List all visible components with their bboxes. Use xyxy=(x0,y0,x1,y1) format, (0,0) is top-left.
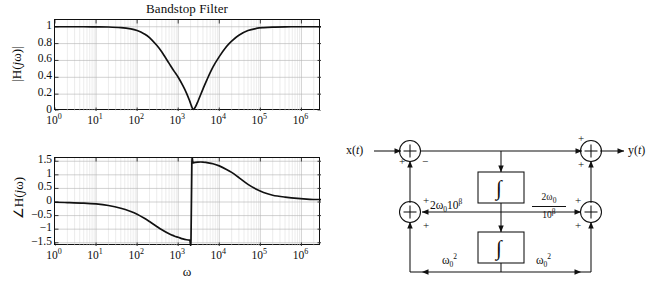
sign-s1-bottom: − xyxy=(422,157,428,166)
x-tick-label: 104 xyxy=(198,246,238,261)
sign-s4-bottomleft: + xyxy=(575,221,581,230)
y-tick-label: 0.5 xyxy=(6,181,52,191)
output-signal-label: y(t) xyxy=(628,143,645,158)
page-title: Bandstop Filter xyxy=(54,1,320,17)
x-tick-label: 101 xyxy=(75,111,115,126)
plots-region: Bandstop Filter |H(jω)| 00.20.40.60.81 1… xyxy=(0,0,332,284)
integral-icon-1: ∫ xyxy=(496,176,502,201)
x-tick-label: 100 xyxy=(34,246,74,261)
y-tick-label: 0.8 xyxy=(6,37,52,47)
phase-plot-svg xyxy=(55,158,321,246)
y-tick-label: 0 xyxy=(6,195,52,205)
x-tick-label: 103 xyxy=(157,246,197,261)
gain-label-bottom-right: ω02 xyxy=(536,252,551,269)
y-tick-label: 0.2 xyxy=(6,87,52,97)
x-tick-label: 105 xyxy=(239,111,279,126)
phase-plot-panel xyxy=(54,157,320,245)
gain-label-right-top: 2ω0 10β xyxy=(532,192,566,220)
integral-icon-2: ∫ xyxy=(496,236,502,261)
magnitude-plot-panel xyxy=(54,19,320,110)
y-tick-label: 1.5 xyxy=(6,154,52,164)
gain-fraction-denominator: 10β xyxy=(532,207,566,220)
y-tick-label: −0.5 xyxy=(6,209,52,219)
y-tick-label: 0.6 xyxy=(6,53,52,63)
sign-s3-topleft: + xyxy=(578,134,584,143)
y-tick-label: 1 xyxy=(6,168,52,178)
y-tick-label: −1.5 xyxy=(6,236,52,246)
sign-s3-bottomleft: + xyxy=(578,160,584,169)
sign-s1-left: + xyxy=(399,157,405,166)
gain-label-left-top: 2ω010β xyxy=(430,197,462,214)
magnitude-plot-svg xyxy=(55,20,321,111)
sign-s2-bottomright: + xyxy=(423,221,429,230)
x-tick-label: 101 xyxy=(75,246,115,261)
x-tick-label: 102 xyxy=(116,111,156,126)
x-tick-label: 100 xyxy=(34,111,74,126)
input-signal-label: x(t) xyxy=(346,143,363,158)
y-tick-label: 1 xyxy=(6,20,52,30)
sign-s4-topleft: + xyxy=(575,196,581,205)
x-tick-label: 105 xyxy=(239,246,279,261)
block-diagram-svg xyxy=(332,0,655,284)
y-tick-label: 0.4 xyxy=(6,70,52,80)
x-tick-label: 106 xyxy=(280,246,320,261)
figure-root: Bandstop Filter |H(jω)| 00.20.40.60.81 1… xyxy=(0,0,655,284)
block-diagram-region: x(t) y(t) ∫ ∫ + − + + + + + + 2ω010β 2ω0… xyxy=(332,0,655,284)
y-tick-label: −1 xyxy=(6,222,52,232)
gain-label-bottom-left: ω02 xyxy=(442,252,457,269)
x-tick-label: 104 xyxy=(198,111,238,126)
x-tick-label: 106 xyxy=(280,111,320,126)
x-tick-label: 103 xyxy=(157,111,197,126)
gain-fraction-numerator: 2ω0 xyxy=(532,192,566,207)
x-axis-label: ω xyxy=(167,264,207,280)
sign-s2-topright: + xyxy=(423,196,429,205)
x-tick-label: 102 xyxy=(116,246,156,261)
